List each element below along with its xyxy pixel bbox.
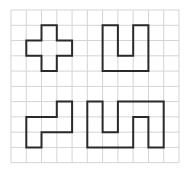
u-shape (103, 25, 149, 71)
grid-diagram (0, 0, 187, 170)
grid-lines (11, 10, 179, 163)
cross-shape (26, 25, 72, 71)
serpentine-shape (87, 102, 163, 148)
step-shape (26, 102, 72, 148)
